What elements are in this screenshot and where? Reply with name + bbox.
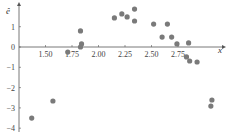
y-tick-label: 1 xyxy=(11,23,15,32)
data-point xyxy=(186,40,191,45)
data-point xyxy=(132,6,137,11)
residual-scatter-plot: 1.501.752.002.252.502.75 10−1−2−3−4 x ê xyxy=(0,0,228,134)
data-point xyxy=(132,18,137,23)
data-points xyxy=(29,6,214,120)
data-point xyxy=(160,34,165,39)
data-point xyxy=(208,103,213,108)
y-tick-label: −1 xyxy=(6,63,15,72)
data-point xyxy=(79,41,84,46)
y-tick-label: −4 xyxy=(6,124,15,133)
x-tick-label: 1.50 xyxy=(39,50,53,59)
data-point xyxy=(169,34,174,39)
data-point xyxy=(209,97,214,102)
data-point xyxy=(194,59,199,64)
x-tick-label: 2.50 xyxy=(145,50,159,59)
data-point xyxy=(125,14,130,19)
data-point xyxy=(174,41,179,46)
x-tick-label: 2.75 xyxy=(171,50,185,59)
data-point xyxy=(50,98,55,103)
data-point xyxy=(165,21,170,26)
data-point xyxy=(78,28,83,33)
y-tick-label: 0 xyxy=(11,43,15,52)
data-point xyxy=(187,58,192,63)
x-tick-label: 2.25 xyxy=(118,50,132,59)
x-axis-arrow-icon xyxy=(222,45,226,49)
data-point xyxy=(112,15,117,20)
data-point xyxy=(119,11,124,16)
axes xyxy=(17,2,226,132)
y-tick-label: −2 xyxy=(6,84,15,93)
data-point xyxy=(184,54,189,59)
data-point xyxy=(29,115,34,120)
y-axis-label: ê xyxy=(6,6,10,16)
y-tick-label: −3 xyxy=(6,104,15,113)
y-axis-arrow-icon xyxy=(17,2,21,6)
x-axis-label: x xyxy=(217,45,222,55)
x-tick-label: 2.00 xyxy=(92,50,106,59)
data-point xyxy=(65,49,70,54)
data-point xyxy=(151,21,156,26)
